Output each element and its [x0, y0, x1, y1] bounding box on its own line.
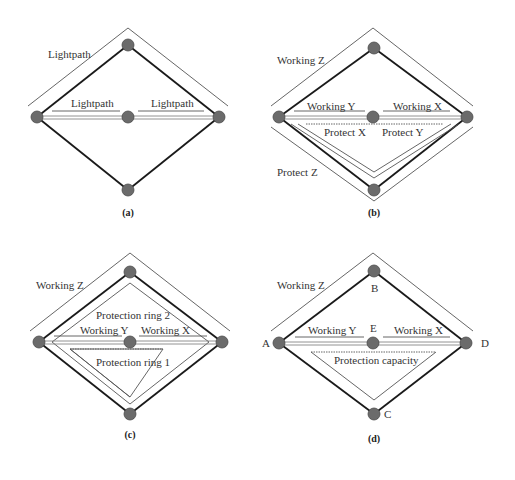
- label-protection-ring-2: Protection ring 2: [96, 309, 170, 321]
- panel-b: Working Z Working Y Working X Protect X …: [271, 28, 473, 219]
- node-right: [213, 111, 225, 123]
- node-b: [368, 265, 380, 277]
- panel-a: Lightpath Lightpath Lightpath (a): [28, 28, 228, 219]
- label-working-z: Working Z: [36, 279, 84, 291]
- panel-c: Working Z Protection ring 2 Working Y Wo…: [30, 253, 230, 441]
- edge-bottom-right: [130, 342, 222, 414]
- label-outer-lightpath: Lightpath: [48, 48, 91, 60]
- node-center: [122, 111, 134, 123]
- node-a: [273, 337, 285, 349]
- label-working-z: Working Z: [277, 54, 325, 66]
- node-e: [367, 337, 379, 349]
- label-right-lightpath: Lightpath: [151, 97, 194, 109]
- label-working-x: Working X: [141, 324, 190, 336]
- node-label-a: A: [262, 337, 270, 349]
- label-working-y: Working Y: [307, 100, 356, 112]
- node-left: [33, 336, 45, 348]
- label-working-y: Working Y: [308, 324, 357, 336]
- node-bottom: [122, 184, 134, 196]
- label-working-z: Working Z: [277, 279, 325, 291]
- edge-left-bottom: [39, 342, 130, 414]
- node-bottom: [124, 408, 136, 420]
- node-left: [273, 111, 285, 123]
- edge-left-bottom: [37, 117, 128, 190]
- node-c: [368, 408, 380, 420]
- node-label-d: D: [481, 337, 489, 349]
- node-bottom: [368, 184, 380, 196]
- panel-d: B A E D C Working Z Working Y Working X …: [262, 253, 489, 445]
- node-label-e: E: [370, 322, 377, 334]
- working-z-line: [271, 28, 473, 106]
- node-label-c: C: [384, 408, 391, 420]
- node-center: [124, 336, 136, 348]
- node-top: [124, 266, 136, 278]
- caption-c: (c): [124, 429, 135, 441]
- label-protect-z: Protect Z: [277, 166, 318, 178]
- node-top: [122, 39, 134, 51]
- caption-a: (a): [122, 207, 134, 219]
- caption-b: (b): [368, 207, 380, 219]
- caption-d: (d): [368, 433, 380, 445]
- figure-canvas: Lightpath Lightpath Lightpath (a) Workin…: [0, 0, 515, 480]
- node-label-b: B: [371, 282, 378, 294]
- label-protect-y: Protect Y: [382, 126, 423, 138]
- label-working-x: Working X: [393, 100, 442, 112]
- label-left-lightpath: Lightpath: [71, 97, 114, 109]
- node-right: [216, 336, 228, 348]
- node-center: [367, 111, 379, 123]
- label-protection-ring-1: Protection ring 1: [96, 356, 170, 368]
- node-top: [368, 42, 380, 54]
- node-right: [461, 111, 473, 123]
- node-left: [31, 111, 43, 123]
- label-working-y: Working Y: [80, 324, 129, 336]
- label-working-x: Working X: [394, 324, 443, 336]
- label-protection-capacity: Protection capacity: [334, 354, 419, 366]
- label-protect-x: Protect X: [324, 126, 366, 138]
- edge-bottom-right: [128, 117, 219, 190]
- node-d: [460, 337, 472, 349]
